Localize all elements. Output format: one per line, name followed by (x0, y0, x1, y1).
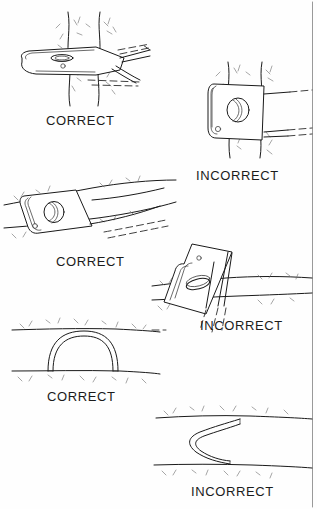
panel-label-incorrect-1: INCORRECT (196, 168, 279, 183)
panel-label-correct-3: CORRECT (47, 389, 115, 404)
panel-label-incorrect-2: INCORRECT (200, 318, 283, 333)
figure-canvas: .ln { fill: none; stroke: #1a1a1a; strok… (0, 0, 317, 509)
figure-background (0, 0, 317, 509)
anchor-placement-figure: .ln { fill: none; stroke: #1a1a1a; strok… (0, 0, 317, 509)
anchor-plate-face-on (208, 84, 264, 140)
panel-label-incorrect-3: INCORRECT (191, 484, 274, 499)
panel-label-correct-2: CORRECT (56, 254, 124, 269)
panel-label-correct-1: CORRECT (46, 113, 114, 128)
